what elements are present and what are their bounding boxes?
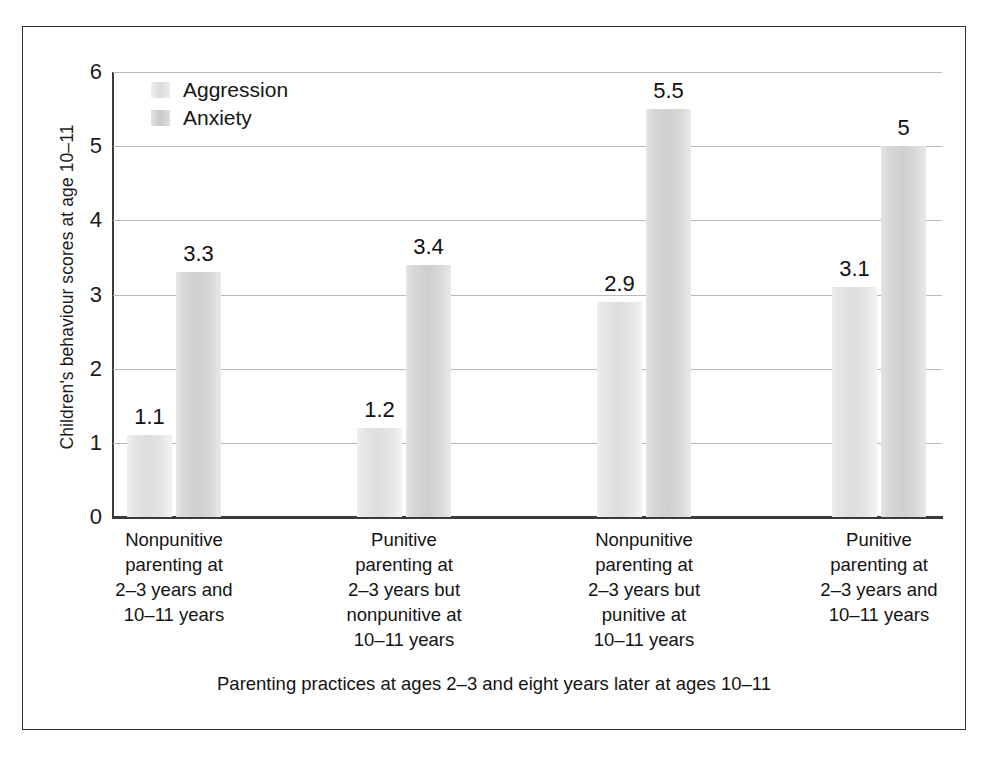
x-axis-line	[112, 516, 943, 518]
category-label-line: 2–3 years but	[534, 577, 754, 602]
figure-bar-chart: Children's behaviour scores at age 10–11…	[0, 0, 1001, 760]
category-label-line: 10–11 years	[769, 602, 989, 627]
y-axis-tick-label: 2	[90, 356, 102, 382]
category-label-line: Nonpunitive	[534, 527, 754, 552]
gridline	[113, 146, 942, 147]
y-axis-tick-label: 5	[90, 133, 102, 159]
legend: Aggression Anxiety	[151, 76, 288, 132]
bar-value-label: 1.2	[345, 397, 415, 423]
category-label-line: 10–11 years	[294, 627, 514, 652]
category-label-line: Punitive	[294, 527, 514, 552]
bar-value-label: 1.1	[115, 404, 185, 430]
y-axis-tick-label: 6	[90, 59, 102, 85]
bar-value-label: 3.1	[820, 256, 890, 282]
legend-label-aggression: Aggression	[183, 78, 288, 102]
category-label-line: parenting at	[294, 552, 514, 577]
bar-value-label: 5	[869, 115, 939, 141]
legend-swatch-aggression-icon	[151, 82, 170, 98]
x-axis-category-label-1: Nonpunitiveparenting at2–3 years and10–1…	[64, 527, 284, 627]
bar-value-label: 2.9	[585, 271, 655, 297]
y-axis-tick-label: 4	[90, 207, 102, 233]
category-label-line: 2–3 years but	[294, 577, 514, 602]
category-label-line: parenting at	[64, 552, 284, 577]
legend-item-aggression: Aggression	[151, 76, 288, 104]
x-axis-category-label-2: Punitiveparenting at2–3 years butnonpuni…	[294, 527, 514, 652]
gridline	[113, 369, 942, 370]
category-label-line: 10–11 years	[534, 627, 754, 652]
plot-area: 0123456 1.13.31.23.42.95.53.15 Aggressio…	[113, 72, 942, 517]
bar-aggression-group-1	[127, 435, 172, 517]
x-axis-category-label-3: Nonpunitiveparenting at2–3 years butpuni…	[534, 527, 754, 652]
category-label-line: 10–11 years	[64, 602, 284, 627]
bar-anxiety-group-1	[176, 272, 221, 517]
y-axis-tick-label: 1	[90, 430, 102, 456]
bar-aggression-group-2	[357, 428, 402, 517]
gridline	[113, 72, 942, 73]
category-label-line: Nonpunitive	[64, 527, 284, 552]
bar-anxiety-group-4	[881, 146, 926, 517]
category-label-line: nonpunitive at	[294, 602, 514, 627]
gridline	[113, 295, 942, 296]
chart-frame: Children's behaviour scores at age 10–11…	[22, 26, 966, 730]
gridline	[113, 220, 942, 221]
x-axis-title: Parenting practices at ages 2–3 and eigh…	[23, 673, 965, 695]
x-axis-category-label-4: Punitiveparenting at2–3 years and10–11 y…	[769, 527, 989, 627]
bar-aggression-group-4	[832, 287, 877, 517]
bar-anxiety-group-2	[406, 265, 451, 517]
category-label-line: parenting at	[769, 552, 989, 577]
category-label-line: punitive at	[534, 602, 754, 627]
legend-item-anxiety: Anxiety	[151, 104, 288, 132]
category-label-line: 2–3 years and	[769, 577, 989, 602]
y-axis-title: Children's behaviour scores at age 10–11	[57, 77, 78, 497]
bar-aggression-group-3	[597, 302, 642, 517]
bar-value-label: 3.3	[164, 241, 234, 267]
legend-swatch-anxiety-icon	[151, 110, 170, 126]
bar-value-label: 3.4	[394, 234, 464, 260]
legend-label-anxiety: Anxiety	[183, 106, 252, 130]
gridline	[113, 443, 942, 444]
bar-anxiety-group-3	[646, 109, 691, 517]
category-label-line: Punitive	[769, 527, 989, 552]
bar-value-label: 5.5	[634, 78, 704, 104]
category-label-line: parenting at	[534, 552, 754, 577]
category-label-line: 2–3 years and	[64, 577, 284, 602]
y-axis-tick-label: 3	[90, 282, 102, 308]
